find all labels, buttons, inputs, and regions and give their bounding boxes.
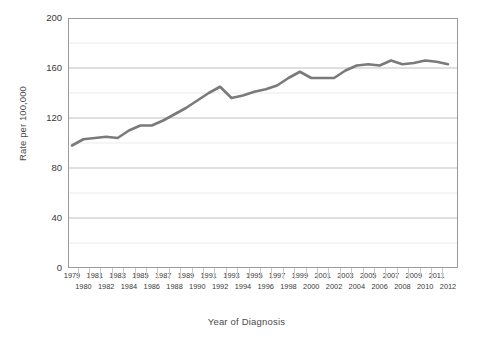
x-tick-separator — [385, 268, 386, 279]
x-axis-title: Year of Diagnosis — [0, 316, 493, 327]
y-tick-label: 40 — [28, 212, 62, 223]
y-tick-label: 200 — [28, 12, 62, 23]
x-tick-label: 2012 — [435, 282, 461, 291]
x-tick-separator — [420, 268, 421, 279]
y-tick-label: 0 — [28, 262, 62, 273]
x-tick-separator — [363, 268, 364, 279]
x-tick-separator — [100, 268, 101, 279]
x-tick-separator — [294, 268, 295, 279]
x-tick-label: 2011 — [424, 271, 450, 280]
x-axis-tick-labels: 1979198019811982198319841985198619871988… — [68, 268, 458, 312]
x-tick-separator — [135, 268, 136, 279]
x-tick-separator — [374, 268, 375, 279]
data-line-series-0 — [72, 61, 448, 146]
y-tick-label: 80 — [28, 162, 62, 173]
x-tick-separator — [283, 268, 284, 279]
x-tick-separator — [214, 268, 215, 279]
y-tick-label: 160 — [28, 62, 62, 73]
y-tick-label: 120 — [28, 112, 62, 123]
x-tick-separator — [317, 268, 318, 279]
chart-container: Rate per 100,000 04080120160200 19791980… — [0, 0, 493, 351]
x-tick-separator — [260, 268, 261, 279]
x-tick-separator — [351, 268, 352, 279]
x-tick-separator — [112, 268, 113, 279]
x-tick-separator — [226, 268, 227, 279]
x-tick-separator — [408, 268, 409, 279]
x-tick-separator — [340, 268, 341, 279]
x-tick-separator — [123, 268, 124, 279]
x-tick-separator — [157, 268, 158, 279]
x-tick-separator — [397, 268, 398, 279]
x-tick-separator — [146, 268, 147, 279]
x-tick-separator — [203, 268, 204, 279]
y-axis-title: Rate per 100,000 — [17, 64, 28, 184]
x-tick-separator — [89, 268, 90, 279]
x-tick-separator — [180, 268, 181, 279]
x-tick-separator — [192, 268, 193, 279]
x-tick-separator — [442, 268, 443, 279]
x-tick-separator — [328, 268, 329, 279]
x-tick-separator — [431, 268, 432, 279]
y-axis-tick-labels: 04080120160200 — [28, 0, 62, 300]
x-tick-separator — [306, 268, 307, 279]
line-chart-svg — [68, 18, 458, 268]
x-tick-separator — [237, 268, 238, 279]
plot-area — [68, 18, 458, 268]
x-tick-separator — [78, 268, 79, 279]
x-tick-separator — [249, 268, 250, 279]
x-tick-separator — [169, 268, 170, 279]
x-tick-separator — [271, 268, 272, 279]
